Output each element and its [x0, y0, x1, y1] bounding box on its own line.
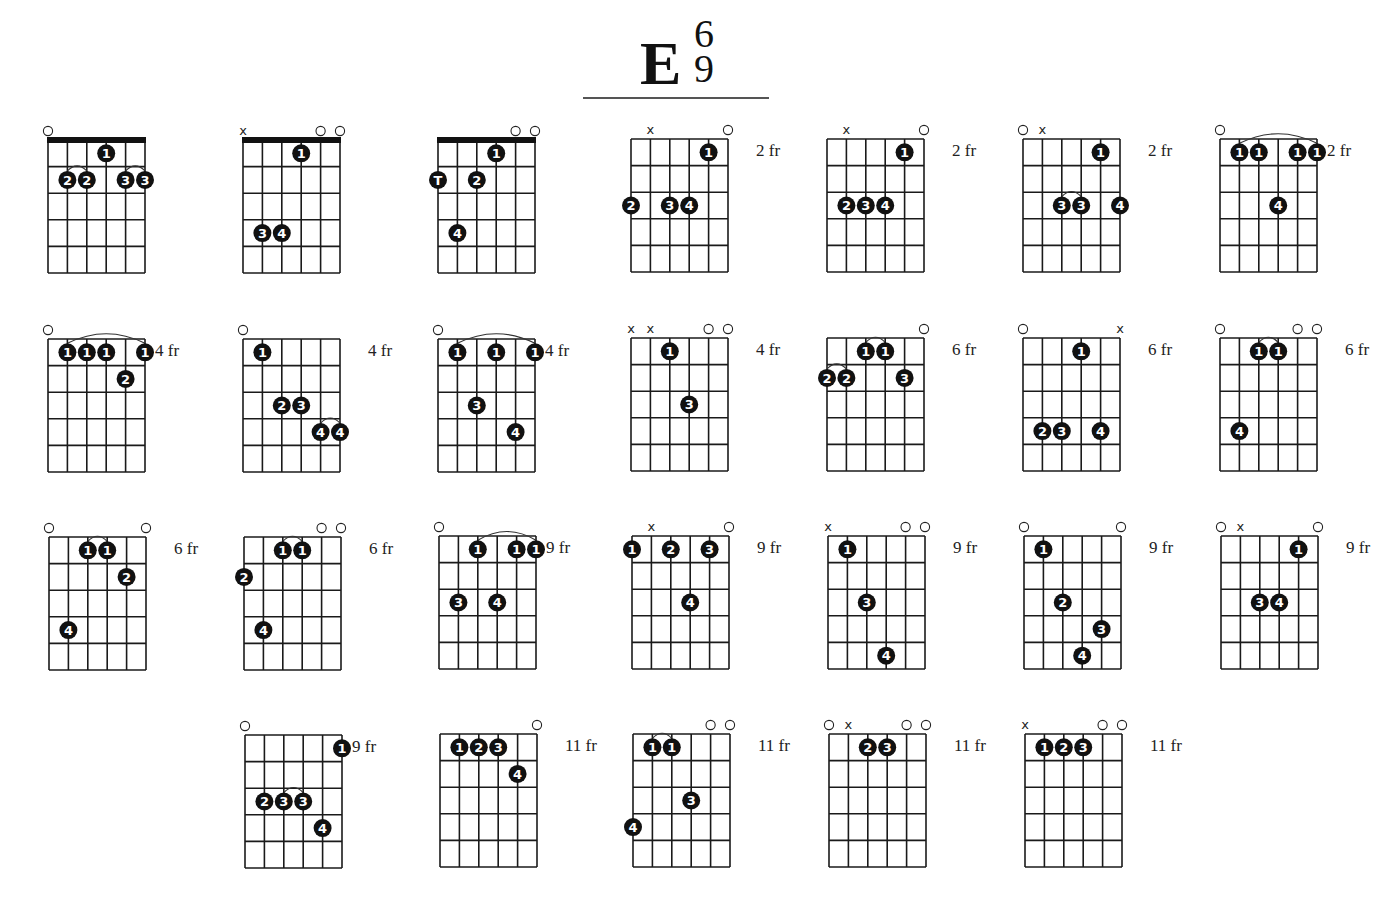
open-string-icon [335, 126, 344, 135]
fret-position-label: 6 fr [1345, 340, 1369, 360]
chord-diagram: 23x11 fr [829, 734, 989, 894]
open-string-icon [706, 720, 715, 729]
fret-position-label: 6 fr [952, 340, 976, 360]
chord-diagram: 1T24 [438, 140, 598, 300]
finger-dot: 1 [1034, 540, 1052, 558]
finger-dot: 4 [876, 197, 894, 215]
muted-string-icon: x [647, 122, 655, 137]
fretboard: 1124 [49, 537, 166, 674]
svg-text:3: 3 [258, 226, 267, 241]
fret-position-label: 11 fr [758, 736, 790, 756]
finger-dot: 3 [680, 396, 698, 414]
fretboard: 11134 [439, 536, 556, 673]
fretboard: 1234 [440, 734, 557, 871]
finger-dot: 3 [878, 738, 896, 756]
fretboard: 134 [828, 536, 945, 673]
string-markers: x [1017, 715, 1134, 735]
string-markers: x [820, 517, 937, 537]
finger-dot: 2 [1033, 422, 1051, 440]
finger-dot: 1 [508, 540, 526, 558]
fretboard: 123 [1025, 734, 1142, 871]
svg-text:1: 1 [881, 344, 890, 359]
open-string-icon [43, 126, 52, 135]
chord-diagram: 1234x6 fr [1023, 338, 1183, 498]
fretboard: 1134 [633, 734, 750, 871]
finger-dot: 1 [527, 540, 545, 558]
finger-dot: 3 [136, 171, 154, 189]
finger-dot: 3 [1093, 620, 1111, 638]
finger-dot: 2 [470, 738, 488, 756]
svg-text:4: 4 [511, 425, 520, 440]
fretboard: 11112 [48, 339, 165, 476]
fretboard: 1334 [1023, 139, 1140, 276]
finger-dot: 3 [1072, 197, 1090, 215]
finger-dot: 1 [1269, 342, 1287, 360]
finger-dot: 1 [98, 541, 116, 559]
fretboard: 23 [829, 734, 946, 871]
svg-text:1: 1 [297, 146, 306, 161]
fretboard: 12344 [243, 339, 360, 476]
fret-position-label: 2 fr [952, 141, 976, 161]
finger-dot: 4 [273, 224, 291, 242]
svg-text:1: 1 [337, 741, 346, 756]
fretboard: 1234 [827, 139, 944, 276]
svg-text:1: 1 [667, 740, 676, 755]
finger-dot: 4 [680, 197, 698, 215]
open-string-icon [1098, 720, 1107, 729]
string-markers [41, 518, 158, 538]
svg-text:4: 4 [335, 425, 344, 440]
finger-dot: 1 [838, 540, 856, 558]
chord-diagram: 12349 fr [1024, 536, 1184, 696]
chord-diagram: 134x9 fr [1221, 536, 1381, 696]
finger-dot: 2 [273, 397, 291, 415]
fret-position-label: 9 fr [1149, 538, 1173, 558]
svg-text:2: 2 [666, 542, 675, 557]
svg-text:3: 3 [900, 371, 909, 386]
svg-text:1: 1 [1039, 542, 1048, 557]
svg-text:1: 1 [492, 146, 501, 161]
finger-dot: 4 [254, 621, 272, 639]
finger-dot: 1 [643, 738, 661, 756]
finger-dot: 1 [469, 540, 487, 558]
finger-dot: 1 [526, 343, 544, 361]
svg-text:1: 1 [140, 345, 149, 360]
string-markers [1212, 319, 1329, 339]
finger-dot: T [429, 171, 447, 189]
svg-text:1: 1 [83, 543, 92, 558]
svg-text:4: 4 [628, 820, 637, 835]
open-string-icon [725, 720, 734, 729]
svg-text:4: 4 [513, 767, 522, 782]
svg-text:3: 3 [1097, 622, 1106, 637]
finger-dot: 4 [509, 765, 527, 783]
finger-dot: 3 [1053, 197, 1071, 215]
open-string-icon [530, 126, 539, 135]
open-string-icon [920, 522, 929, 531]
svg-text:4: 4 [686, 595, 695, 610]
open-string-icon [723, 324, 732, 333]
string-markers: x [1213, 517, 1330, 537]
fretboard: 134 [1221, 536, 1338, 673]
string-markers [1016, 517, 1133, 537]
finger-dot: 1 [136, 343, 154, 361]
muted-string-icon: x [627, 321, 635, 336]
finger-dot: 1 [661, 342, 679, 360]
finger-dot: 2 [837, 369, 855, 387]
svg-text:4: 4 [685, 198, 694, 213]
svg-text:2: 2 [842, 198, 851, 213]
chord-diagram: 111344 fr [438, 339, 598, 499]
finger-dot: 1 [58, 343, 76, 361]
finger-dot: 2 [255, 793, 273, 811]
string-markers [235, 320, 352, 340]
svg-text:3: 3 [279, 794, 288, 809]
fretboard: 11114 [1220, 139, 1337, 276]
svg-text:4: 4 [1096, 424, 1105, 439]
svg-text:2: 2 [1058, 595, 1067, 610]
finger-dot: 3 [117, 171, 135, 189]
chord-diagram: 1234x2 fr [631, 139, 791, 299]
svg-text:1: 1 [1040, 740, 1049, 755]
muted-string-icon: x [648, 519, 656, 534]
fretboard: 12233 [48, 140, 165, 277]
finger-dot: 3 [682, 792, 700, 810]
svg-text:4: 4 [882, 648, 891, 663]
fret-position-label: 2 fr [756, 141, 780, 161]
